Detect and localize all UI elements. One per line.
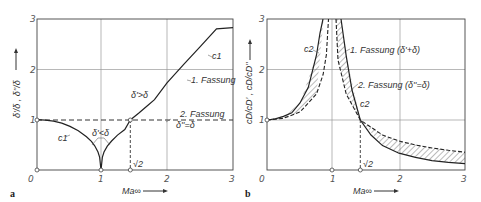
xlabel-a: Ma∞ <box>122 186 141 196</box>
y-arrowhead-b <box>248 39 252 44</box>
note-c2-left: c2 <box>304 44 314 54</box>
note-c2-right: c2 <box>360 99 370 109</box>
note-sqrt2-b: √2 <box>363 159 373 169</box>
hatch-band-right <box>336 19 465 164</box>
xtick-b-0: 0 <box>259 174 265 184</box>
ytick-b-3: 3 <box>259 14 265 24</box>
xlabel-b: Ma∞ <box>353 186 372 196</box>
note-c1-low: c1 <box>58 133 68 143</box>
xtick-a-2: 2 <box>164 174 170 184</box>
note-less: δ'<δ <box>92 128 110 138</box>
ytick-a-3: 3 <box>30 14 36 24</box>
ytick-a-2: 2 <box>30 65 36 75</box>
note-fassung2-b: 2. Fassung (δ''=δ) <box>357 80 430 90</box>
note-fassung1-a: 1. Fassung <box>191 75 236 85</box>
ylabel-b: cD/cD' , cD/cD'' <box>244 62 254 124</box>
chart-a: 3 2 1 0 1 2 3 Ma∞ δ'/δ , δ''/δ c1 1. Fas… <box>10 14 236 199</box>
note-fassung1-b: 1. Fassung (δ'+δ) <box>350 45 420 55</box>
panel-label-b: b <box>245 188 251 199</box>
markers-a <box>35 118 132 172</box>
note-sqrt2-a: √2 <box>133 159 143 169</box>
markers-b <box>265 118 362 172</box>
xtick-a-3: 3 <box>229 174 235 184</box>
x-arrowhead-a <box>163 189 168 193</box>
note-equal: δ''=δ <box>176 120 196 130</box>
leader-less-a <box>65 55 212 145</box>
xtick-b-1: 1 <box>330 174 336 184</box>
xtick-b-2: 2 <box>397 174 403 184</box>
y-arrowhead-a <box>14 48 18 53</box>
xtick-a-0: 0 <box>28 174 34 184</box>
note-fassung2-a: 2. Fassung <box>179 109 225 119</box>
ytick-a-1: 1 <box>30 115 36 125</box>
chart-b: 3 2 1 0 1 2 3 Ma∞ cD/cD' , cD/cD'' c2 1.… <box>244 14 467 199</box>
panel-label-a: a <box>10 188 15 199</box>
grid-b <box>267 19 465 170</box>
ytick-b-1: 1 <box>259 115 265 125</box>
ytick-b-2: 2 <box>259 65 265 75</box>
note-greater: δ'>δ <box>131 90 149 100</box>
note-c1-top: c1 <box>212 51 222 61</box>
plot-frame-b <box>267 19 465 170</box>
xtick-a-1: 1 <box>98 174 104 184</box>
figure: 3 2 1 0 1 2 3 Ma∞ δ'/δ , δ''/δ c1 1. Fas… <box>0 0 481 202</box>
hatch-band-left <box>267 14 329 120</box>
ylabel-a: δ'/δ , δ''/δ <box>12 79 22 118</box>
x-arrowhead-b <box>394 189 399 193</box>
xtick-b-3: 3 <box>461 174 467 184</box>
